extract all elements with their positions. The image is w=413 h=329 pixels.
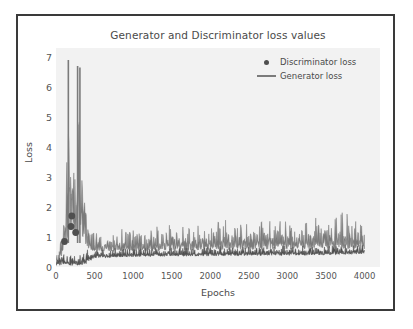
legend-label-discriminator: Discriminator loss (280, 57, 356, 67)
y-tick-label: 5 (34, 112, 52, 123)
x-tick-label: 0 (36, 271, 76, 281)
y-axis-label: Loss (23, 123, 34, 183)
legend-item-generator: Generator loss (252, 69, 374, 83)
y-tick-label: 6 (34, 82, 52, 93)
legend-label-generator: Generator loss (280, 71, 342, 81)
loss-chart: Generator and Discriminator loss values … (0, 0, 413, 329)
x-axis-label: Epochs (56, 287, 380, 298)
legend-line-icon (252, 75, 280, 77)
discriminator-point-marker (68, 223, 75, 230)
legend-dot-icon (252, 60, 280, 65)
y-tick-label: 3 (34, 172, 52, 183)
y-tick-label: 4 (34, 142, 52, 153)
y-tick-label: 2 (34, 202, 52, 213)
x-tick-label: 2000 (190, 271, 230, 281)
chart-legend: Discriminator loss Generator loss (252, 55, 374, 83)
discriminator-point-marker (68, 213, 75, 220)
x-tick-label: 3000 (267, 271, 307, 281)
y-tick-label: 1 (34, 232, 52, 243)
x-tick-label: 2500 (229, 271, 269, 281)
x-tick-label: 3500 (306, 271, 346, 281)
discriminator-point-marker (61, 238, 68, 245)
x-tick-label: 1000 (113, 271, 153, 281)
chart-title: Generator and Discriminator loss values (56, 29, 380, 41)
discriminator-point-marker (72, 229, 79, 236)
series-band-generator-loss (56, 122, 364, 261)
legend-item-discriminator: Discriminator loss (252, 55, 374, 69)
x-tick-label: 1500 (152, 271, 192, 281)
y-tick-label: 7 (34, 52, 52, 63)
x-tick-label: 4000 (345, 271, 385, 281)
x-tick-label: 500 (75, 271, 115, 281)
